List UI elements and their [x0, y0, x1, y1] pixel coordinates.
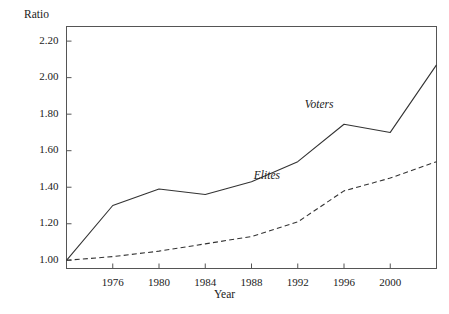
series-label-voters: Voters [305, 98, 334, 110]
y-tick-label: 1.00 [23, 253, 59, 265]
x-tick-label: 1988 [229, 276, 275, 288]
x-tick-label: 2000 [367, 276, 413, 288]
chart-figure: Ratio Year 1.001.201.401.601.802.002.20 … [0, 0, 449, 314]
y-tick-label: 1.40 [23, 180, 59, 192]
chart-background [0, 0, 449, 314]
y-tick-label: 1.80 [23, 107, 59, 119]
line-chart-plot [0, 0, 449, 314]
y-axis-title: Ratio [24, 8, 49, 20]
x-tick-label: 1976 [90, 276, 136, 288]
series-label-elites: Elites [254, 169, 280, 181]
y-tick-label: 1.60 [23, 143, 59, 155]
x-tick-label: 1992 [275, 276, 321, 288]
y-tick-label: 2.20 [23, 34, 59, 46]
y-tick-label: 1.20 [23, 216, 59, 228]
x-tick-label: 1996 [321, 276, 367, 288]
x-axis-title: Year [0, 288, 449, 300]
x-tick-label: 1980 [136, 276, 182, 288]
x-tick-label: 1984 [182, 276, 228, 288]
y-tick-label: 2.00 [23, 70, 59, 82]
